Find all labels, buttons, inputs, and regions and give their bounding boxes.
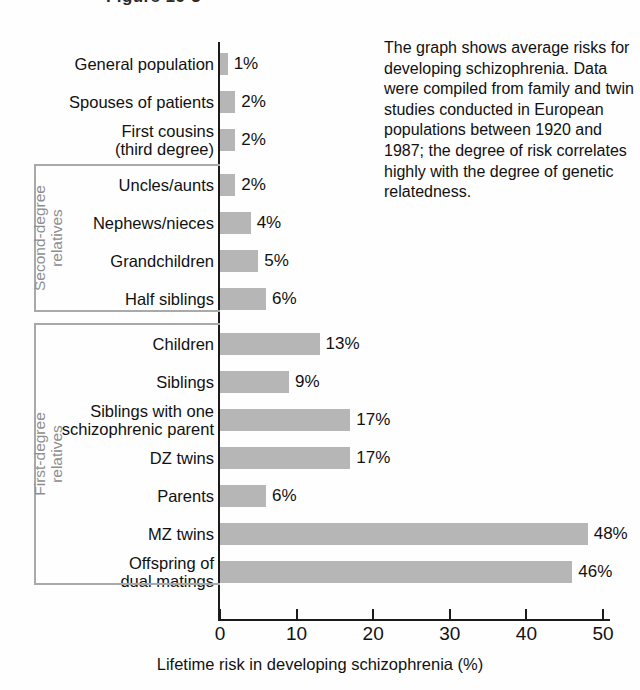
x-tick-label-0: 0 [215,623,226,645]
bar [220,561,572,583]
bar-row: MZ twins48% [0,515,640,553]
bar [220,409,350,431]
bar-value-label: 46% [578,562,612,582]
bar-row: Children13% [0,325,640,363]
bar [220,447,350,469]
bar-row: Nephews/nieces4% [0,204,640,242]
category-label: General population [0,55,214,73]
bar [220,523,588,545]
bar [220,53,228,75]
x-tick-label-40: 40 [516,623,537,645]
bar-value-label: 48% [594,524,628,544]
category-label: First cousins (third degree) [0,122,214,158]
x-tick-0 [219,609,221,620]
bar [220,333,320,355]
group-label: Second-degree relatives [31,163,65,313]
category-label: Spouses of patients [0,93,214,111]
x-tick-50 [602,609,604,620]
bar [220,250,258,272]
bar-row: Grandchildren5% [0,242,640,280]
bar-value-label: 9% [295,372,320,392]
x-tick-40 [525,609,527,620]
bar-value-label: 17% [356,448,390,468]
group-bracket: First-degree relatives [25,323,95,585]
bracket-bottom-cap [34,583,220,585]
bar-value-label: 2% [241,92,266,112]
bar-value-label: 17% [356,410,390,430]
bar-value-label: 13% [326,334,360,354]
bar [220,174,235,196]
bar-row: DZ twins17% [0,439,640,477]
bar-value-label: 4% [257,213,282,233]
figure-caption-note: The graph shows average risks for develo… [384,38,634,203]
bracket-top-cap [34,323,220,325]
x-axis-title: Lifetime risk in developing schizophreni… [0,655,640,674]
group-bracket: Second-degree relatives [25,164,95,312]
x-tick-label-30: 30 [439,623,460,645]
x-tick-label-20: 20 [363,623,384,645]
bar [220,91,235,113]
bar-value-label: 2% [241,130,266,150]
x-tick-label-50: 50 [592,623,613,645]
x-axis-line [218,619,610,621]
x-tick-20 [372,609,374,620]
bar-row: Siblings9% [0,363,640,401]
bar-value-label: 6% [272,486,297,506]
bar [220,485,266,507]
bar-value-label: 6% [272,289,297,309]
bar-row: Parents6% [0,477,640,515]
bar-value-label: 5% [264,251,289,271]
bar-row: Offspring of dual matings46% [0,553,640,591]
bar-value-label: 1% [234,54,259,74]
schizophrenia-risk-figure: Figure 16-3 01020304050 General populati… [0,0,640,690]
group-label: First-degree relatives [31,379,65,529]
bar [220,129,235,151]
bar [220,288,266,310]
x-tick-10 [296,609,298,620]
x-tick-30 [449,609,451,620]
bar-row: Half siblings6% [0,280,640,318]
bar [220,212,251,234]
bar [220,371,289,393]
bar-row: Siblings with one schizophrenic parent17… [0,401,640,439]
bar-value-label: 2% [241,175,266,195]
x-tick-label-10: 10 [286,623,307,645]
